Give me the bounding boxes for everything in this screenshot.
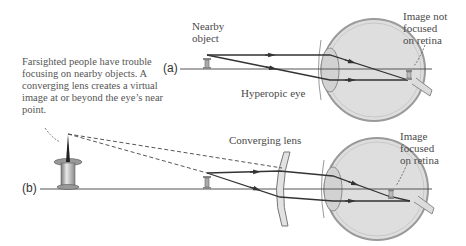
image-not-focused-label: Image not focused on retina — [403, 10, 447, 46]
caption-pointer — [45, 128, 60, 142]
virtual-ray-2 — [68, 134, 207, 173]
image-a — [406, 70, 412, 80]
nearby-object-label: Nearby object — [192, 20, 224, 44]
panel-label-a: (a) — [163, 61, 178, 75]
image-b — [388, 189, 394, 199]
hyperopic-eye-label: Hyperopic eye — [241, 87, 305, 99]
diagram-canvas — [0, 0, 466, 246]
converging-lens-label: Converging lens — [229, 134, 301, 146]
virtual-image-spool — [54, 134, 82, 190]
image-focused-label: Image focused on retina — [400, 130, 439, 166]
nearby-object-b — [203, 176, 211, 189]
caption-text: Farsighted people have trouble focusing … — [22, 56, 172, 116]
nearby-object-a — [203, 58, 211, 69]
panel-label-b: (b) — [22, 181, 37, 195]
